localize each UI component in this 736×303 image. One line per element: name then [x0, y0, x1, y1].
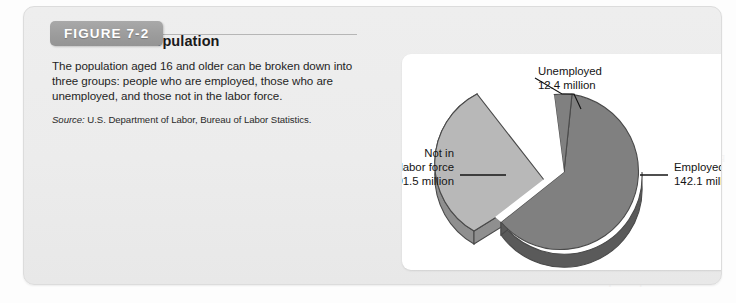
figure-number-label: FIGURE 7-2 [64, 26, 149, 41]
figure-description: The population aged 16 and older can be … [52, 58, 370, 104]
label-employed-value: 142.1 million [674, 175, 722, 187]
label-unemployed-name: Unemployed [538, 65, 602, 77]
figure-number-tab: FIGURE 7-2 [50, 21, 163, 46]
label-not-in-labor-force-value: 91.5 million [402, 175, 454, 187]
figure-page: the labor force participation rate unemp… [0, 0, 736, 303]
label-unemployed-value: 12.4 million [538, 79, 596, 91]
label-not-in-labor-force-line2: labor force [402, 161, 454, 173]
figure-card: FIGURE 7-2 Adult Population The populati… [23, 6, 722, 285]
label-employed-name: Employed [674, 161, 722, 173]
pie-chart: Unemployed 12.4 million Employed 142.1 m… [402, 54, 722, 270]
chart-panel: Unemployed 12.4 million Employed 142.1 m… [402, 54, 722, 270]
figure-text-column: Adult Population The population aged 16 … [52, 33, 370, 126]
figure-source: Source: U.S. Department of Labor, Bureau… [52, 113, 370, 126]
source-text: U.S. Department of Labor, Bureau of Labo… [87, 114, 311, 125]
label-not-in-labor-force-line1: Not in [424, 147, 454, 159]
source-lead-label: Source: [52, 114, 85, 125]
